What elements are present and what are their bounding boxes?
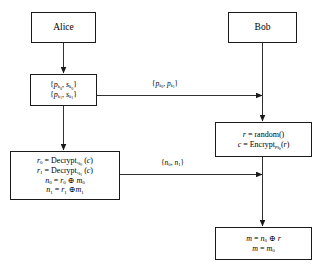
- formula-encrypt-c: c = Encryptpkb(r): [238, 140, 290, 150]
- actor-label-alice: Alice: [53, 22, 74, 34]
- formula-random-r: r = random(): [243, 130, 284, 140]
- formula-recover-m: m = n0 ⊕ r: [246, 234, 281, 244]
- actor-box-alice: Alice: [31, 12, 96, 43]
- formula-xor-n0: n0 = r0 ⊕ m0: [45, 176, 85, 186]
- formula-xor-n1: n1 = r1 ⊕m1: [46, 185, 84, 195]
- message-label-nonces: {n0, n1}: [140, 158, 205, 167]
- formula-keypair-1: {pk1, sk1}: [50, 90, 77, 100]
- step-box-bob-randomize: r = random() c = Encryptpkb(r): [215, 122, 312, 157]
- actor-label-bob: Bob: [255, 22, 271, 34]
- actor-box-bob: Bob: [228, 12, 297, 43]
- step-box-alice-decrypt: r0 = Decryptsk0 (c) r1 = Decryptsk1 (c) …: [10, 151, 120, 200]
- formula-decrypt-r0: r0 = Decryptsk0 (c): [37, 156, 93, 166]
- step-box-bob-recover: m = n0 ⊕ r m = m0: [215, 227, 312, 260]
- formula-recover-m0: m = m0: [252, 244, 275, 254]
- message-label-public-keys: {pk0, pk1}: [130, 79, 200, 88]
- protocol-diagram: Alice Bob {pk0, sk0} {pk1, sk1} r0 = Dec…: [0, 0, 318, 267]
- step-box-alice-keypairs: {pk0, sk0} {pk1, sk1}: [30, 74, 97, 106]
- formula-decrypt-r1: r1 = Decryptsk1 (c): [37, 166, 93, 176]
- formula-keypair-0: {pk0, sk0}: [50, 80, 77, 90]
